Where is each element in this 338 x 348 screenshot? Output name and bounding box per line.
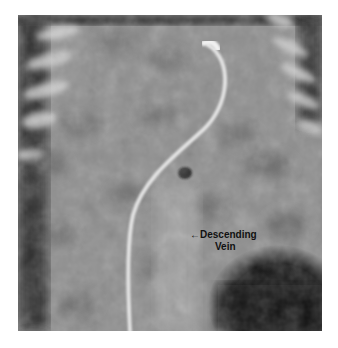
annotation-label: ←Descending <box>190 229 257 241</box>
xray-image: ←Descending Vein <box>18 15 322 331</box>
xray-rendering <box>18 15 322 331</box>
annotation-text-line2: Vein <box>215 241 236 253</box>
arrow-left-icon: ← <box>190 229 200 240</box>
annotation-text-line1: Descending <box>200 229 257 240</box>
